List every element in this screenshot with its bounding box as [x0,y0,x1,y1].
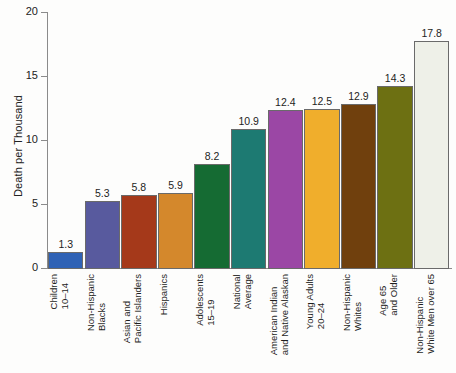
bar[interactable] [268,110,303,269]
x-axis-label-line: and Native Alaskan [279,274,290,355]
bar-value-label: 1.3 [58,238,73,250]
bar-value-label: 5.3 [95,187,110,199]
x-axis-label: Adolescents15–19 [194,274,229,326]
bar[interactable] [158,193,193,269]
x-axis-label-line: White Men over 65 [425,274,436,354]
y-axis-tick-label: 15 [0,69,38,81]
x-axis-label-line: Hispanics [158,274,169,315]
bar[interactable] [121,195,156,269]
bar[interactable] [377,86,412,269]
bar-value-label: 12.4 [275,96,295,108]
bar-group: 17.8 [414,13,449,269]
bar-value-label: 17.8 [421,27,441,39]
y-axis-tick [41,140,48,141]
bar[interactable] [48,252,83,269]
bar-group: 14.3 [377,13,412,269]
x-axis-label: Non-HispanicBlacks [85,274,120,331]
x-axis-label: Non-HispanicWhites [341,274,376,331]
bar[interactable] [341,104,376,269]
x-axis-label-line: 15–19 [205,274,216,326]
plot-area: 1.35.35.85.98.210.912.412.512.914.317.8 [48,12,452,269]
bar-value-label: 5.8 [132,181,147,193]
bar-group: 5.9 [158,13,193,269]
bar-chart: Death per Thousand 05101520 1.35.35.85.9… [0,0,456,373]
bar[interactable] [231,129,266,269]
x-axis-label-line: National [231,274,242,309]
y-axis-tick [41,204,48,205]
x-axis-label-line: Children [48,274,59,309]
bar-value-label: 8.2 [205,150,220,162]
bar[interactable] [194,164,229,269]
x-axis-label-line: 20–24 [315,274,326,329]
x-axis-label: Children10–14 [48,274,83,309]
bar-group: 12.9 [341,13,376,269]
x-axis-label-line: Non-Hispanic [414,297,425,354]
x-axis-label: Non-HispanicWhite Men over 65 [414,274,449,354]
y-axis-tick [41,12,48,13]
bar-value-label: 12.9 [348,90,368,102]
y-axis-tick [41,76,48,77]
x-axis-label-line: and Older [388,274,399,316]
bar-value-label: 10.9 [238,115,258,127]
bar[interactable] [304,109,339,269]
y-axis-tick-label: 20 [0,5,38,17]
y-axis-tick-label: 5 [0,197,38,209]
bar-value-label: 5.9 [168,179,183,191]
bar[interactable] [85,201,120,269]
y-axis-tick [41,268,48,269]
x-axis-label: Asian andPacific Islanders [121,274,156,343]
x-axis-label-line: 10–14 [59,274,70,309]
x-axis-label-line: Blacks [96,274,107,331]
bar-group: 5.8 [121,13,156,269]
x-axis-label: Hispanics [158,274,193,315]
x-axis-label: Young Adults20–24 [304,274,339,329]
x-axis-label-line: Average [242,274,253,309]
x-axis-label-line: American Indian [268,287,279,356]
bar-value-label: 12.5 [312,95,332,107]
x-axis-label-line: Young Adults [304,274,315,329]
y-axis-tick-label: 10 [0,133,38,145]
x-axis-label: American Indianand Native Alaskan [268,274,303,355]
bar-value-label: 14.3 [385,72,405,84]
bar-group: 1.3 [48,13,83,269]
x-axis-label-line: Adolescents [194,274,205,326]
x-axis-label-line: Whites [352,274,363,331]
bar[interactable] [414,41,449,269]
x-axis-label-line: Asian and [121,301,132,343]
bar-group: 10.9 [231,13,266,269]
x-axis-label-line: Age 65 [377,286,388,316]
x-axis-label-line: Pacific Islanders [132,274,143,343]
bar-group: 5.3 [85,13,120,269]
y-axis-tick-label: 0 [0,261,38,273]
bar-group: 12.5 [304,13,339,269]
x-axis-label: NationalAverage [231,274,266,309]
x-axis-label-line: Non-Hispanic [85,274,96,331]
x-axis-label: Age 65and Older [377,274,412,316]
x-axis-label-line: Non-Hispanic [341,274,352,331]
bar-group: 8.2 [194,13,229,269]
bar-group: 12.4 [268,13,303,269]
